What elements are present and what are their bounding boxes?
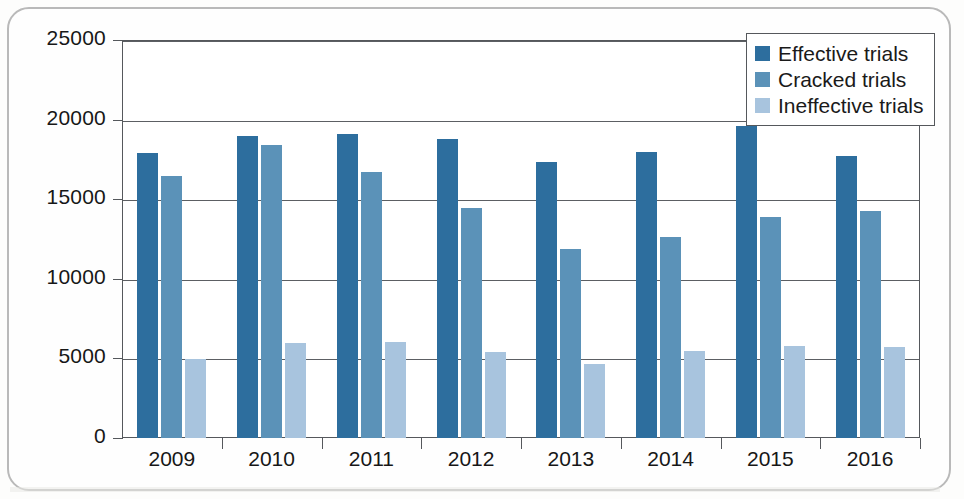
bar-2012-ineffective-trials — [485, 352, 506, 438]
y-axis-line — [122, 40, 123, 438]
bar-2010-cracked-trials — [261, 145, 282, 438]
x-tick-2016 — [920, 438, 921, 449]
bar-2009-effective-trials — [137, 153, 158, 438]
y-axis-label: 5000 — [0, 344, 106, 368]
x-axis-label: 2010 — [222, 447, 322, 471]
y-axis-label: 20000 — [0, 106, 106, 130]
y-axis-label: 10000 — [0, 265, 106, 289]
chart-page: 0500010000150002000025000 20092010201120… — [0, 0, 964, 499]
bar-2013-cracked-trials — [560, 249, 581, 438]
y-tick-5000 — [113, 358, 123, 359]
bar-2014-effective-trials — [636, 152, 657, 438]
y-tick-10000 — [113, 279, 123, 280]
x-axis-label: 2012 — [421, 447, 521, 471]
chart-legend: Effective trialsCracked trialsIneffectiv… — [746, 33, 935, 126]
scan-artifact — [10, 487, 940, 492]
bar-2014-ineffective-trials — [684, 351, 705, 438]
x-axis-label: 2016 — [820, 447, 920, 471]
bar-2014-cracked-trials — [660, 237, 681, 438]
bar-2016-ineffective-trials — [884, 347, 905, 438]
bar-2010-ineffective-trials — [285, 343, 306, 438]
y-axis-label: 25000 — [0, 26, 106, 50]
bar-2011-cracked-trials — [361, 172, 382, 438]
legend-item-cracked-trials: Cracked trials — [755, 66, 924, 92]
bar-2012-cracked-trials — [461, 208, 482, 438]
bar-2009-ineffective-trials — [185, 359, 206, 438]
bar-2015-cracked-trials — [760, 217, 781, 438]
bar-2016-cracked-trials — [860, 211, 881, 438]
legend-item-ineffective-trials: Ineffective trials — [755, 92, 924, 118]
y-tick-0 — [113, 438, 123, 439]
x-axis-label: 2015 — [721, 447, 821, 471]
x-axis-label: 2011 — [322, 447, 422, 471]
legend-swatch-icon — [755, 46, 770, 61]
legend-swatch-icon — [755, 98, 770, 113]
y-axis-label: 0 — [0, 424, 106, 448]
bar-2011-ineffective-trials — [385, 342, 406, 438]
legend-label: Effective trials — [778, 43, 908, 64]
bar-2011-effective-trials — [337, 134, 358, 438]
y-tick-15000 — [113, 199, 123, 200]
bar-2015-ineffective-trials — [784, 346, 805, 438]
y-tick-20000 — [113, 120, 123, 121]
bar-2009-cracked-trials — [161, 176, 182, 438]
bar-2013-ineffective-trials — [584, 364, 605, 438]
bar-2012-effective-trials — [437, 139, 458, 438]
bar-2010-effective-trials — [237, 136, 258, 438]
bar-chart: 0500010000150002000025000 20092010201120… — [0, 0, 964, 499]
legend-item-effective-trials: Effective trials — [755, 40, 924, 66]
y-axis-label: 15000 — [0, 185, 106, 209]
x-axis-label: 2014 — [621, 447, 721, 471]
y-tick-25000 — [113, 40, 123, 41]
x-axis-label: 2013 — [521, 447, 621, 471]
legend-label: Cracked trials — [778, 69, 906, 90]
bar-2013-effective-trials — [536, 162, 557, 438]
bar-2015-effective-trials — [736, 126, 757, 438]
legend-swatch-icon — [755, 72, 770, 87]
bar-2016-effective-trials — [836, 156, 857, 438]
x-axis-label: 2009 — [122, 447, 222, 471]
legend-label: Ineffective trials — [778, 95, 924, 116]
